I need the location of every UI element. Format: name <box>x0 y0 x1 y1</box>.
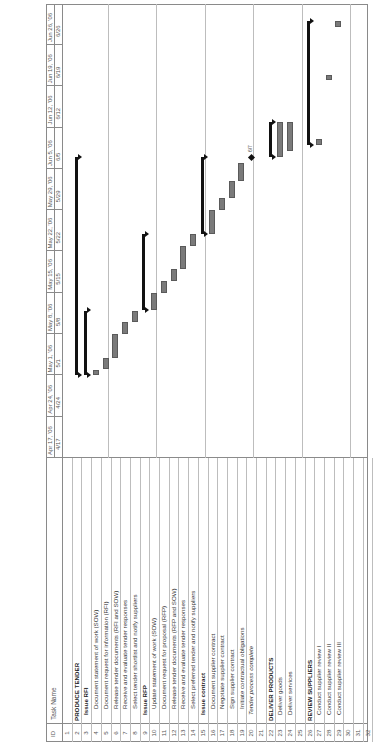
task-bar[interactable] <box>335 21 341 27</box>
task-name[interactable]: Sign supplier contract <box>227 448 237 721</box>
gantt-view: IDTask NameApr 17, '064/17Apr 24, '064/2… <box>0 0 381 744</box>
task-bar[interactable] <box>151 293 157 311</box>
summary-cap-start <box>78 372 82 378</box>
task-name[interactable]: Document request for proposal (RFP) <box>159 448 169 721</box>
task-name[interactable]: Tender process complete <box>246 454 256 721</box>
timescale-week-minor: 4/24 <box>55 397 61 409</box>
summary-bar[interactable] <box>269 122 272 157</box>
summary-bar[interactable] <box>201 157 204 234</box>
timescale-week-minor: 5/8 <box>55 318 61 326</box>
row-divider <box>256 458 257 742</box>
timescale-mid-divider <box>54 4 55 458</box>
task-name[interactable]: REVIEW SUPPLIERS <box>305 460 315 721</box>
task-id: 11 <box>159 724 169 742</box>
task-name[interactable]: Deliver services <box>285 454 295 721</box>
summary-bar[interactable] <box>84 311 87 376</box>
task-bar[interactable] <box>219 198 225 210</box>
task-name[interactable]: Issue RFI <box>81 454 91 721</box>
task-name[interactable]: Document statement of work (SOW) <box>91 448 101 721</box>
task-name[interactable]: Issue RFP <box>140 454 150 721</box>
summary-bar[interactable] <box>142 234 145 311</box>
timescale-week-major: May 29, '06 <box>47 176 53 207</box>
row-divider <box>372 458 373 742</box>
task-bar[interactable] <box>122 322 128 334</box>
task-bar[interactable] <box>229 181 235 199</box>
task-id: 8 <box>130 724 140 742</box>
task-id: 13 <box>178 724 188 742</box>
summary-cap-end <box>310 18 314 24</box>
task-name[interactable]: PRODUCE TENDER <box>72 460 82 721</box>
timescale-week-minor: 4/17 <box>55 438 61 450</box>
task-name-column-header[interactable]: Task Name <box>50 687 57 720</box>
task-name[interactable]: Deliver goods <box>275 454 285 721</box>
task-id: 25 <box>295 724 305 742</box>
timescale-week-minor: 6/19 <box>55 67 61 79</box>
task-id: 28 <box>324 724 334 742</box>
task-id: 17 <box>217 724 227 742</box>
timescale-week-minor: 6/26 <box>55 25 61 37</box>
timescale-week-major: Jun 19, '06 <box>47 54 53 83</box>
task-name[interactable]: Initiate contractual obligations <box>237 448 247 721</box>
task-id: 29 <box>334 724 344 742</box>
task-id: 6 <box>111 724 121 742</box>
task-id: 1 <box>62 724 72 742</box>
task-id: 16 <box>208 724 218 742</box>
id-column-header[interactable]: ID <box>50 731 56 737</box>
task-bar[interactable] <box>190 234 196 246</box>
task-name[interactable]: Release tender documents (RFP and SOW) <box>169 448 179 721</box>
task-name[interactable]: Issue contract <box>198 454 208 721</box>
task-bar[interactable] <box>316 139 322 145</box>
task-bar[interactable] <box>209 210 215 234</box>
task-bar[interactable] <box>103 358 109 370</box>
task-id: 26 <box>305 724 315 742</box>
task-name[interactable]: Document request for information (RFI) <box>101 448 111 721</box>
task-id: 4 <box>91 724 101 742</box>
timescale-week-minor: 5/29 <box>55 191 61 203</box>
task-name[interactable]: Conduct supplier review II <box>324 454 334 721</box>
task-bar[interactable] <box>326 75 332 81</box>
task-bar[interactable] <box>287 122 293 152</box>
task-bar[interactable] <box>93 370 99 376</box>
task-bar[interactable] <box>112 334 118 358</box>
task-name[interactable]: Select preferred tender and notify suppl… <box>188 448 198 721</box>
task-id: 27 <box>314 724 324 742</box>
task-bar[interactable] <box>277 122 283 157</box>
task-id: 23 <box>275 724 285 742</box>
chart-gridline <box>108 4 109 458</box>
task-name[interactable]: Receive and evaluate tender responses <box>178 448 188 721</box>
milestone-date-label: 6/7 <box>247 145 253 152</box>
task-bar[interactable] <box>132 311 138 323</box>
summary-cap-end <box>204 154 208 160</box>
summary-bar[interactable] <box>75 157 78 375</box>
task-id: 20 <box>246 724 256 742</box>
task-bar[interactable] <box>238 163 244 181</box>
chart-gridline <box>253 4 254 458</box>
timescale-week-major: Apr 17, '06 <box>47 426 53 455</box>
task-name[interactable]: Negotiate supplier contract <box>217 448 227 721</box>
task-name[interactable]: Select tender shortlist and notify suppl… <box>130 448 140 721</box>
summary-cap-start <box>272 154 276 160</box>
chart-gridline <box>156 4 157 458</box>
timescale-week-major: Apr 24, '06 <box>47 385 53 414</box>
timescale-week-minor: 6/12 <box>55 108 61 120</box>
task-bar[interactable] <box>180 246 186 270</box>
task-name[interactable]: Document supplier contract <box>208 448 218 721</box>
summary-cap-start <box>310 142 314 148</box>
timescale-week-major: May 8, '06 <box>47 304 53 332</box>
task-id: 21 <box>256 724 266 742</box>
row-divider <box>295 458 296 742</box>
summary-cap-start <box>204 231 208 237</box>
summary-cap-end <box>78 154 82 160</box>
task-bar[interactable] <box>161 281 167 293</box>
timescale-week-major: May 15, '06 <box>47 259 53 290</box>
task-name[interactable]: DELIVER PRODUCTS <box>266 460 276 721</box>
task-bar[interactable] <box>171 269 177 281</box>
summary-bar[interactable] <box>307 21 310 145</box>
task-name[interactable]: Conduct supplier review III <box>334 454 344 721</box>
task-name[interactable]: Update statement of work (SOW) <box>149 448 159 721</box>
summary-cap-end <box>272 119 276 125</box>
task-id: 7 <box>120 724 130 742</box>
task-name[interactable]: Conduct supplier review I <box>314 454 324 721</box>
task-name[interactable]: Receive and evaluate tender responses <box>120 448 130 721</box>
task-name[interactable]: Release tender documents (RFI and SOW) <box>111 448 121 721</box>
